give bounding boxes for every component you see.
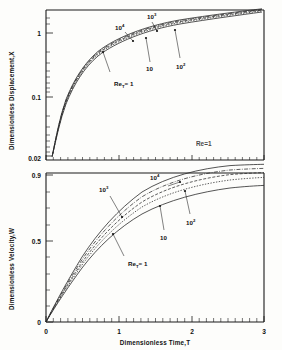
lower-label-re100: 102 bbox=[186, 218, 196, 226]
lower-ytick-0p9: 0.9 bbox=[32, 172, 41, 179]
lower-x-ticks bbox=[46, 316, 264, 322]
lower-label-re1e3: 103 bbox=[99, 185, 109, 193]
upper-label-re1e4: 104 bbox=[115, 23, 125, 31]
smudged-annotation: Re=1 bbox=[196, 140, 212, 147]
figure-svg: ReT= 1 10 102 103 bbox=[0, 0, 282, 350]
xtick-0: 0 bbox=[44, 328, 48, 335]
upper-y-ticks bbox=[46, 18, 53, 156]
upper-label-re100: 102 bbox=[176, 62, 186, 70]
lower-curve-family bbox=[46, 164, 264, 322]
lower-curve-re1e3 bbox=[46, 168, 264, 322]
lower-ytick-0: 0 bbox=[37, 319, 41, 326]
lower-panel: ReT= 1 10 102 103 bbox=[8, 164, 264, 325]
lower-ytick-0p5: 0.5 bbox=[32, 238, 41, 245]
lower-label-re1: ReT= 1 bbox=[128, 260, 148, 269]
xtick-3: 3 bbox=[262, 328, 266, 335]
lower-label-re10: 10 bbox=[160, 234, 167, 241]
upper-panel: ReT= 1 10 102 103 bbox=[8, 9, 264, 162]
upper-annotations: ReT= 1 10 102 103 bbox=[102, 12, 186, 88]
lower-curve-re1 bbox=[46, 185, 264, 322]
lower-label-re1e4: 104 bbox=[150, 173, 160, 181]
upper-ytick-1: 1 bbox=[37, 30, 41, 37]
upper-ytick-0p1: 0.1 bbox=[32, 94, 41, 101]
upper-label-re1: ReT= 1 bbox=[114, 80, 134, 89]
upper-curve-re10 bbox=[52, 11, 262, 156]
xaxis-title: Dimensionless Time,T bbox=[120, 339, 190, 347]
xtick-2: 2 bbox=[190, 328, 194, 335]
figure-container: ReT= 1 10 102 103 bbox=[0, 0, 282, 350]
xaxis-labels: 0 1 2 3 Dimensionless Time,T bbox=[44, 328, 266, 347]
lower-curve-re10 bbox=[46, 177, 264, 322]
upper-ytick-0p02: 0.02 bbox=[28, 155, 41, 162]
upper-label-re1e3: 103 bbox=[147, 12, 157, 20]
lower-yaxis-title: Dimensionless Velocity,W bbox=[8, 228, 16, 310]
lower-curve-re100 bbox=[46, 173, 264, 322]
upper-label-re10: 10 bbox=[146, 65, 153, 72]
upper-curve-re1 bbox=[52, 12, 262, 157]
upper-yaxis-title: Dimensionless Displacement,X bbox=[8, 51, 16, 150]
lower-y-ticks bbox=[46, 175, 53, 322]
upper-x-ticks bbox=[46, 155, 264, 160]
xtick-1: 1 bbox=[117, 328, 121, 335]
